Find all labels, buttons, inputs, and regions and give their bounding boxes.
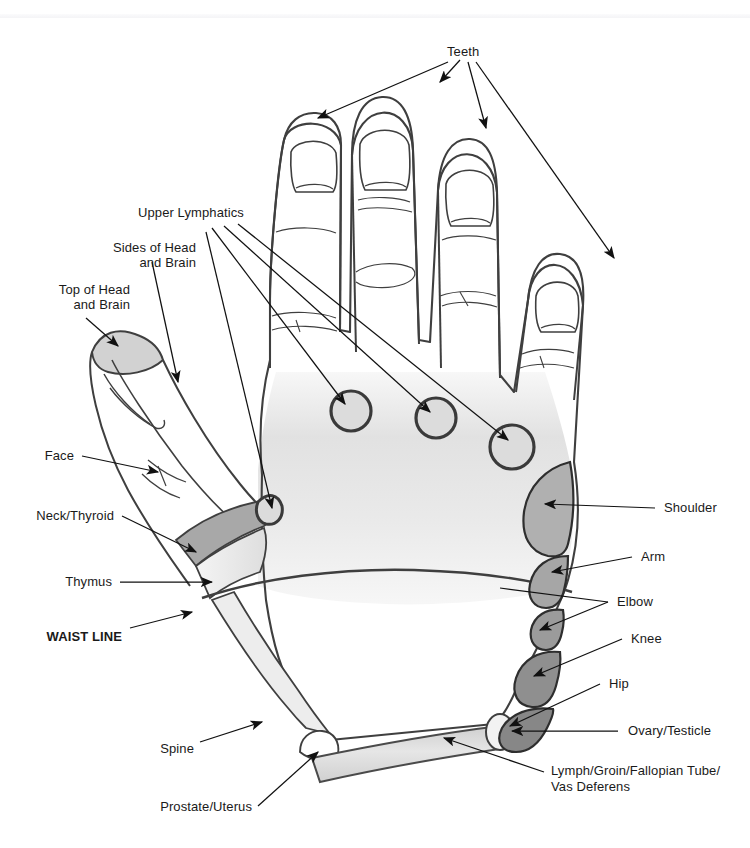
lymphatic-web-thumb (256, 496, 282, 525)
label-top-of-head-line2: and Brain (0, 297, 130, 312)
leader-teeth-2 (440, 60, 460, 82)
label-knee: Knee (631, 631, 662, 646)
label-sides-of-head-line2: and Brain (0, 255, 196, 270)
label-spine: Spine (0, 741, 194, 756)
label-waist-line: WAIST LINE (0, 629, 122, 644)
thumb-outline (90, 352, 190, 586)
reflexology-chart-page: Teeth Upper Lymphatics Sides of Head and… (0, 0, 750, 848)
label-top-of-head-line1: Top of Head (0, 282, 130, 297)
label-upper-lymphatics: Upper Lymphatics (138, 205, 244, 220)
label-sides-of-head-line1: Sides of Head (0, 240, 196, 255)
label-elbow: Elbow (617, 594, 653, 609)
leader-face (82, 456, 158, 472)
hand-diagram (0, 0, 750, 848)
label-lymph-groin-line2: Vas Deferens (551, 779, 630, 794)
label-hip: Hip (609, 676, 629, 691)
label-neck-thyroid: Neck/Thyroid (0, 508, 114, 523)
label-ovary-testicle: Ovary/Testicle (628, 723, 711, 738)
thumb-inner-line (112, 360, 242, 528)
thumb-crease-4 (158, 466, 166, 486)
leader-prostate (258, 752, 318, 806)
label-face: Face (0, 448, 74, 463)
label-thymus: Thymus (0, 574, 112, 589)
label-lymph-groin-line1: Lymph/Groin/Fallopian Tube/ (551, 763, 720, 778)
leader-waist-line (130, 612, 192, 628)
label-prostate-uterus: Prostate/Uterus (0, 799, 252, 814)
label-teeth: Teeth (447, 44, 479, 59)
leader-lymph-d (206, 232, 272, 508)
thumb-crease-1 (104, 374, 150, 424)
lymphatic-circle-1 (331, 391, 371, 431)
label-arm: Arm (641, 549, 665, 564)
label-shoulder: Shoulder (664, 500, 717, 515)
hip-zone (499, 708, 553, 752)
leader-spine (200, 722, 262, 742)
top-of-head-zone (92, 331, 163, 374)
